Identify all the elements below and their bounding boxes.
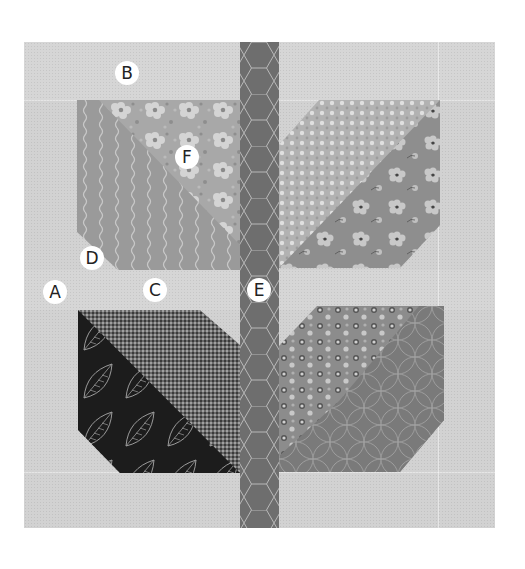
leaf-bottom-left [78,310,240,473]
leaf-top-right [279,100,440,268]
label-f: F [175,145,199,169]
leaf-top-left [77,100,240,270]
label-c: C [143,278,167,302]
label-d: D [80,246,104,270]
label-e: E [247,278,271,302]
label-a: A [43,280,67,304]
leaf-bottom-right [279,306,444,472]
label-b: B [115,61,139,85]
